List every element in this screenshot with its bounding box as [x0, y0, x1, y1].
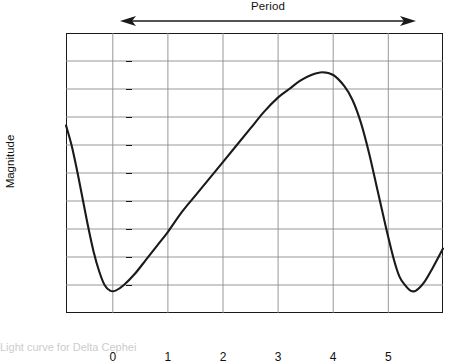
y-tick-mark	[126, 257, 132, 258]
y-axis-title: Magnitude	[4, 119, 17, 205]
x-tick-label-1: 1	[156, 351, 180, 363]
light-curve-path	[66, 72, 443, 291]
x-tick-label-4: 4	[321, 351, 345, 363]
light-curve-line	[66, 33, 443, 313]
double-headed-arrow-icon	[118, 13, 418, 29]
y-tick-mark	[126, 145, 132, 146]
x-tick-label-2: 2	[211, 351, 235, 363]
x-tick-label-5: 5	[376, 351, 400, 363]
y-tick-mark	[126, 89, 132, 90]
y-tick-mark	[126, 201, 132, 202]
figure-caption: Light curve for Delta Cephei	[0, 341, 136, 353]
period-annotation: Period	[118, 0, 418, 32]
plot-area: 3.7 3.8 3.9 4.0 4.1 4.2 4.3 4.4 4.5 0 1 …	[66, 33, 443, 313]
period-label: Period	[118, 0, 418, 13]
x-tick-label-3: 3	[266, 351, 290, 363]
y-tick-mark	[126, 173, 132, 174]
y-tick-mark	[126, 61, 132, 62]
y-tick-mark	[126, 229, 132, 230]
y-tick-mark	[126, 117, 132, 118]
y-tick-mark	[126, 285, 132, 286]
